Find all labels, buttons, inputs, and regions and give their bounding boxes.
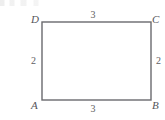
side-length-bottom: 3: [91, 104, 96, 114]
rectangle-figure-screenshot: D C A B 3 3 2 2: [0, 0, 165, 120]
side-length-left: 2: [31, 56, 36, 66]
vertex-label-d: D: [31, 14, 39, 25]
side-length-right: 2: [156, 56, 161, 66]
vertex-label-c: C: [152, 14, 159, 25]
rectangle-outline: [42, 22, 151, 100]
rectangle-shape: [0, 0, 165, 120]
side-length-top: 3: [91, 10, 96, 20]
vertex-label-a: A: [31, 100, 38, 111]
vertex-label-b: B: [152, 100, 159, 111]
